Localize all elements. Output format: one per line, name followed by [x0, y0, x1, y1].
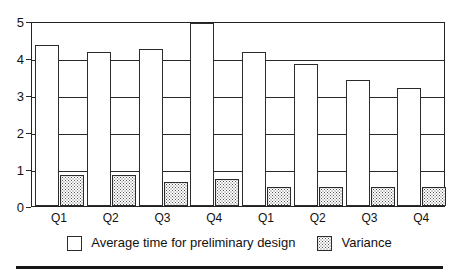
bottom-horizontal-rule [16, 266, 443, 269]
bar-variance [371, 187, 395, 206]
x-axis-tick-label: Q4 [206, 212, 222, 224]
bar-average-time [242, 52, 266, 206]
x-axis-tick-label: Q2 [103, 212, 119, 224]
plot-area [31, 22, 445, 207]
bar-chart-figure: 012345 Q1Q2Q3Q4Q1Q2Q3Q4 Average time for… [0, 0, 459, 279]
bar-variance [112, 175, 136, 206]
y-axis-tick-mark [26, 170, 31, 171]
x-axis-tick-label: Q1 [258, 212, 274, 224]
bar-variance [215, 179, 239, 206]
y-axis-tick-label: 3 [17, 90, 24, 103]
bar-variance [164, 182, 188, 206]
bar-variance [267, 187, 291, 206]
legend-item-variance: Variance [317, 236, 391, 251]
legend-label-average-time: Average time for preliminary design [91, 236, 295, 250]
bar-variance [60, 175, 84, 206]
x-axis-tick-label: Q1 [51, 212, 67, 224]
x-axis-tick-label: Q4 [413, 212, 429, 224]
bar-average-time [35, 45, 59, 206]
y-axis-tick-label: 4 [17, 53, 24, 66]
y-axis-tick-mark [26, 22, 31, 23]
bar-variance [319, 187, 343, 206]
x-axis-tick-label: Q2 [310, 212, 326, 224]
legend-label-variance: Variance [341, 236, 391, 250]
y-axis-tick-label: 1 [17, 164, 24, 177]
y-axis-tick-mark [26, 96, 31, 97]
bar-average-time [397, 88, 421, 206]
bar-average-time [139, 49, 163, 206]
y-axis-tick-mark [26, 207, 31, 208]
legend-swatch-white-square [67, 236, 82, 251]
legend-item-average-time: Average time for preliminary design [67, 236, 295, 251]
bar-average-time [294, 64, 318, 206]
y-axis-tick-label: 5 [17, 16, 24, 29]
y-axis-tick-label: 0 [17, 201, 24, 214]
legend-swatch-dotted-square [317, 236, 332, 251]
bar-variance [422, 187, 446, 206]
y-axis-tick-label: 2 [17, 127, 24, 140]
x-axis-tick-label: Q3 [361, 212, 377, 224]
y-axis-tick-mark [26, 133, 31, 134]
x-axis-tick-label: Q3 [154, 212, 170, 224]
bar-average-time [87, 52, 111, 206]
bar-average-time [346, 80, 370, 206]
chart-legend: Average time for preliminary design Vari… [0, 232, 459, 254]
y-axis-tick-mark [26, 59, 31, 60]
bar-average-time [190, 23, 214, 206]
